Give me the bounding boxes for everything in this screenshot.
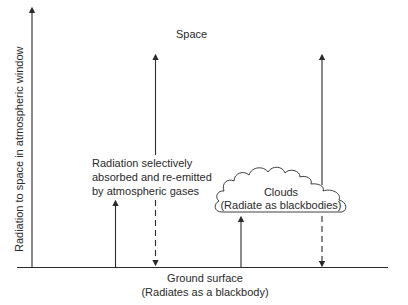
- ground-sublabel: (Radiates as a blackbody): [120, 286, 290, 299]
- diagram-graphics: [0, 0, 408, 305]
- atmospheric-window-label: Radiation to space in atmospheric window: [13, 47, 26, 252]
- clouds-label: Clouds: [222, 186, 340, 199]
- ground-label: Ground surface: [120, 272, 290, 285]
- gases-label-line2: absorbed and re-emitted: [92, 171, 212, 184]
- gases-label-line3: by atmospheric gases: [92, 185, 199, 198]
- space-label: Space: [176, 28, 207, 41]
- atmospheric-radiation-diagram: Space Radiation to space in atmospheric …: [0, 0, 408, 305]
- gases-label-line1: Radiation selectively: [92, 157, 192, 170]
- clouds-sublabel: (Radiate as blackbodies): [220, 199, 342, 212]
